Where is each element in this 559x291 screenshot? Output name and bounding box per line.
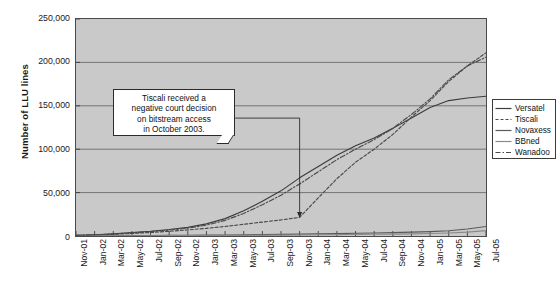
series-line-wanadoo bbox=[76, 57, 486, 235]
legend-label: Versatel bbox=[515, 104, 545, 113]
x-tick-label: Jan-05 bbox=[435, 239, 446, 291]
series-line-tiscali bbox=[76, 53, 486, 236]
annotation-leader-line bbox=[235, 118, 302, 218]
legend-swatch-icon bbox=[495, 148, 512, 157]
legend-item-tiscali[interactable]: Tiscali bbox=[495, 114, 553, 125]
x-tick-label: Mar-02 bbox=[116, 239, 127, 291]
x-tick-label: Nov-02 bbox=[191, 239, 202, 291]
x-tick-label: Mar-04 bbox=[341, 239, 352, 291]
x-tick-label: Mar-03 bbox=[229, 239, 240, 291]
annotation-line-4: in October 2003. bbox=[114, 124, 234, 134]
annotation-line-1: Tiscali received a bbox=[114, 93, 234, 103]
y-tick-label: 100,000 bbox=[24, 145, 70, 154]
legend-swatch-icon bbox=[495, 126, 512, 135]
x-tick-label: Jan-04 bbox=[322, 239, 333, 291]
x-tick-label: Jan-03 bbox=[210, 239, 221, 291]
series-lines bbox=[76, 53, 486, 236]
x-tick-label: Mar-05 bbox=[454, 239, 465, 291]
legend: VersatelTiscaliNovaxessBBnedWanadoo bbox=[492, 99, 556, 159]
y-tick-label: 150,000 bbox=[24, 101, 70, 110]
legend-label: Novaxess bbox=[515, 126, 551, 135]
y-tick-label: 50,000 bbox=[24, 189, 70, 198]
x-tick-label: Jul-02 bbox=[154, 239, 165, 291]
x-tick-label: Sep-03 bbox=[285, 239, 296, 291]
x-tick-label: Sep-04 bbox=[397, 239, 408, 291]
x-tick-label: May-04 bbox=[360, 239, 371, 291]
annotation-line-3: on bitstream access bbox=[114, 114, 234, 124]
y-tick-label: 250,000 bbox=[24, 14, 70, 23]
y-tick-label: 0 bbox=[24, 233, 70, 242]
x-tick-label: Jul-03 bbox=[266, 239, 277, 291]
legend-item-novaxess[interactable]: Novaxess bbox=[495, 125, 553, 136]
y-axis-tick-labels: 250,000200,000150,000100,00050,0000 bbox=[20, 0, 70, 291]
legend-label: Wanadoo bbox=[515, 148, 550, 157]
legend-label: BBned bbox=[515, 137, 540, 146]
x-tick-label: Nov-01 bbox=[79, 239, 90, 291]
annotation-line-2: negative court decision bbox=[114, 103, 234, 113]
x-axis-tick-labels: Nov-01Jan-02Mar-02May-02Jul-02Sep-02Nov-… bbox=[75, 239, 487, 291]
legend-item-versatel[interactable]: Versatel bbox=[495, 103, 553, 114]
x-tick-label: May-02 bbox=[135, 239, 146, 291]
legend-swatch-icon bbox=[495, 104, 512, 113]
legend-item-bbned[interactable]: BBned bbox=[495, 136, 553, 147]
legend-swatch-icon bbox=[495, 137, 512, 146]
legend-item-wanadoo[interactable]: Wanadoo bbox=[495, 147, 553, 158]
legend-label: Tiscali bbox=[515, 115, 538, 124]
x-tick-label: May-05 bbox=[472, 239, 483, 291]
legend-swatch-icon bbox=[495, 115, 512, 124]
x-tick-label: Jul-04 bbox=[379, 239, 390, 291]
x-tick-label: Jan-02 bbox=[98, 239, 109, 291]
x-tick-label: Jul-05 bbox=[491, 239, 502, 291]
annotation-callout: Tiscali received a negative court decisi… bbox=[113, 89, 235, 136]
x-tick-label: Nov-04 bbox=[416, 239, 427, 291]
y-tick-label: 200,000 bbox=[24, 57, 70, 66]
x-tick-label: May-03 bbox=[248, 239, 259, 291]
llu-lines-chart: Number of LLU lines 250,000200,000150,00… bbox=[0, 0, 559, 291]
x-tick-label: Nov-03 bbox=[304, 239, 315, 291]
x-tick-label: Sep-02 bbox=[173, 239, 184, 291]
